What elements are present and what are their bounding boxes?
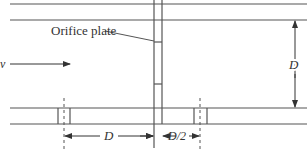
orifice-plate bbox=[154, 0, 162, 148]
orifice-diagram: Orifice plate v D D D/2 bbox=[0, 0, 307, 150]
velocity-label: v bbox=[0, 57, 6, 71]
pipe-top-wall bbox=[10, 4, 307, 20]
diameter-label: D bbox=[288, 57, 299, 72]
upstream-distance-label: D bbox=[103, 128, 114, 143]
pipe-bottom-wall bbox=[10, 108, 307, 124]
orifice-plate-label: Orifice plate bbox=[51, 23, 117, 38]
downstream-distance-label: D/2 bbox=[167, 129, 186, 143]
